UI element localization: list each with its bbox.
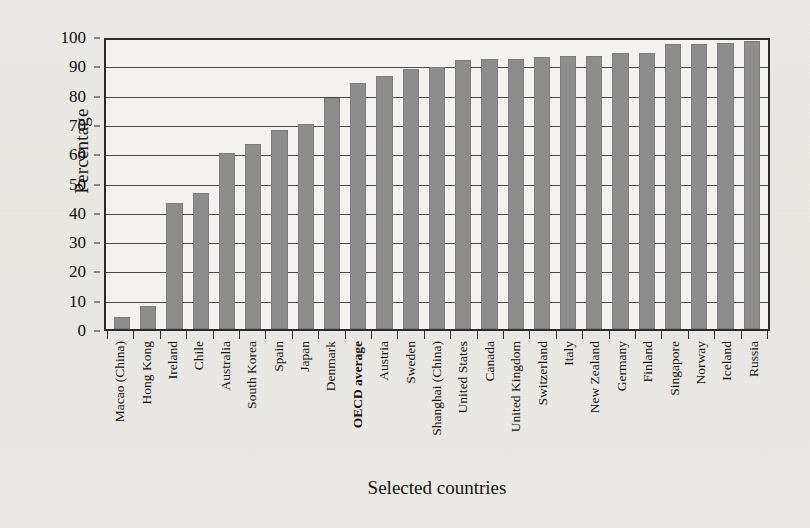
bar-slot [476,40,502,329]
y-axis-tick-label: 70 [69,116,86,136]
x-axis-label-slot: Chile [186,341,212,461]
x-axis-tick-mark [133,331,134,339]
x-axis-category-label: South Korea [245,341,259,409]
x-axis-category-label: OECD average [351,341,365,428]
bar-slot [712,40,738,329]
x-axis-tick-mark [767,331,768,339]
x-axis-tick-mark [107,331,108,339]
bar-slot [240,40,266,329]
x-axis-label-slot: Canada [477,341,503,461]
x-axis-tick-mark [371,331,372,339]
x-axis-category-label: Chile [193,341,207,370]
x-axis-tick-mark [345,331,346,339]
bar-slot [503,40,529,329]
x-axis-tick-mark [318,331,319,339]
x-axis-tick-mark [186,331,187,339]
bar [166,203,182,329]
x-axis-category-labels: Macao (China)Hong KongIrelandChileAustra… [104,341,770,461]
x-axis-tick-mark [292,331,293,339]
x-axis-category-label: Canada [483,341,497,381]
x-axis-category-label: Australia [219,341,233,391]
x-axis-category-label: New Zealand [589,341,603,413]
bar-slot [161,40,187,329]
x-axis-category-label: Germany [615,341,629,391]
bar [508,59,524,329]
y-axis-tick-mark [94,38,100,39]
x-axis-label-slot: Sweden [398,341,424,461]
bar [560,56,576,329]
bar-slot [109,40,135,329]
x-axis-category-label: Hong Kong [140,341,154,404]
x-axis-category-label: Denmark [325,341,339,391]
bar-slot [529,40,555,329]
bar-slot [266,40,292,329]
y-axis-tick-mark [94,155,100,156]
x-axis-label-slot: Spain [266,341,292,461]
bar-slot [450,40,476,329]
bar [298,124,314,329]
plot-area [104,38,770,331]
bar [534,57,550,329]
x-axis-category-label: Switzerland [536,341,550,405]
x-axis-label-slot: Hong Kong [134,341,160,461]
x-axis-category-label: Macao (China) [113,341,127,422]
x-axis-tick-mark [397,331,398,339]
y-axis-tick-mark [94,125,100,126]
y-axis-tick-label: 20 [69,262,86,282]
bar [455,60,471,329]
x-axis-category-label: United Kingdom [509,341,523,432]
bar-slot [555,40,581,329]
x-axis-tick-mark [714,331,715,339]
x-axis-tick-mark [477,331,478,339]
x-axis-tick-mark [529,331,530,339]
bar [114,317,130,329]
x-axis-tick-mark [635,331,636,339]
bar-slot [398,40,424,329]
bar-slot [293,40,319,329]
x-axis-tick-marks [104,331,770,340]
x-axis-label-slot: Germany [609,341,635,461]
x-axis-label-slot: Austria [371,341,397,461]
bar [665,44,681,329]
x-axis-label-slot: Italy [556,341,582,461]
bar-slot [581,40,607,329]
bar-slot [135,40,161,329]
bar-slot [345,40,371,329]
bar [691,44,707,329]
y-axis-tick-mark [94,184,100,185]
x-axis-category-label: Norway [694,341,708,385]
x-axis-tick-mark [741,331,742,339]
x-axis-category-label: Russia [747,341,761,377]
bar [612,53,628,329]
bar-slot [424,40,450,329]
x-axis-category-label: Finland [641,341,655,382]
y-axis-tick-mark [94,96,100,97]
x-axis-tick-mark [265,331,266,339]
x-axis-label-slot: Australia [213,341,239,461]
y-axis-tick-mark [94,331,100,332]
x-axis-category-label: Singapore [668,341,682,396]
y-axis-tick-label: 40 [69,204,86,224]
bar-slot [686,40,712,329]
x-axis-label-slot: South Korea [239,341,265,461]
bar [429,67,445,329]
y-axis-tick-label: 0 [78,321,87,341]
bar-chart-figure: Percentage 0102030405060708090100 Macao … [0,0,810,528]
y-axis-tick-label: 60 [69,145,86,165]
x-axis-tick-mark [609,331,610,339]
bar [403,69,419,329]
x-axis-label-slot: Shanghai (China) [424,341,450,461]
y-axis-tick-mark [94,67,100,68]
bar-slot [634,40,660,329]
y-axis-tick-mark [94,213,100,214]
bar-slot [319,40,345,329]
bar-slot [607,40,633,329]
x-axis-label-slot: New Zealand [582,341,608,461]
bar [481,59,497,329]
bar-slot [660,40,686,329]
x-axis-category-label: Iceland [721,341,735,381]
bar [324,98,340,329]
bar-slot [371,40,397,329]
y-axis-tick-label: 100 [61,28,87,48]
x-axis-category-label: Japan [298,341,312,372]
